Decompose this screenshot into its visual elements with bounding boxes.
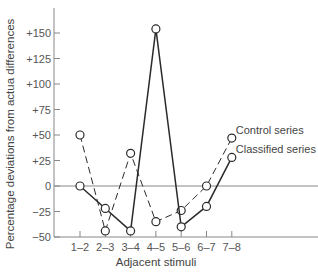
data-point-marker — [76, 131, 84, 139]
x-tick-label: 3–4 — [121, 241, 139, 253]
data-point-marker — [101, 227, 109, 235]
y-tick-label: 0 — [45, 180, 51, 192]
y-tick-label: +50 — [32, 129, 51, 141]
y-axis: −50−250+25+50+75+100+125+150 — [26, 8, 60, 243]
data-point-marker — [228, 134, 236, 142]
y-tick-label: +125 — [26, 53, 51, 65]
data-point-marker — [203, 182, 211, 190]
x-axis: 1–22–33–44–55–66–77–8 — [54, 231, 318, 253]
data-point-marker — [152, 25, 160, 33]
data-point-marker — [127, 227, 135, 235]
y-tick-label: −25 — [32, 206, 51, 218]
x-axis-label: Adjacent stimuli — [116, 256, 197, 268]
y-tick-label: +25 — [32, 155, 51, 167]
y-tick-label: −50 — [32, 231, 51, 243]
legend-label: Control series — [236, 124, 304, 136]
y-axis-label: Percentage deviations from actua differe… — [4, 18, 16, 249]
series-classified-series — [76, 25, 236, 235]
data-point-marker — [76, 182, 84, 190]
y-tick-label: +100 — [26, 78, 51, 90]
x-tick-label: 6–7 — [197, 241, 215, 253]
x-tick-label: 5–6 — [172, 241, 190, 253]
x-tick-label: 7–8 — [223, 241, 241, 253]
x-tick-label: 1–2 — [71, 241, 89, 253]
data-point-marker — [228, 153, 236, 161]
line-chart: −50−250+25+50+75+100+125+150 1–22–33–44–… — [0, 0, 318, 274]
x-tick-label: 2–3 — [96, 241, 114, 253]
legend: Control seriesClassified series — [236, 124, 317, 155]
data-point-marker — [101, 204, 109, 212]
data-point-marker — [177, 223, 185, 231]
data-point-marker — [203, 202, 211, 210]
x-tick-label: 4–5 — [147, 241, 165, 253]
data-point-marker — [152, 218, 160, 226]
legend-label: Classified series — [236, 143, 317, 155]
series-layer — [76, 25, 236, 235]
y-tick-label: +150 — [26, 27, 51, 39]
data-point-marker — [127, 149, 135, 157]
series-control-series — [76, 131, 236, 235]
y-tick-label: +75 — [32, 104, 51, 116]
